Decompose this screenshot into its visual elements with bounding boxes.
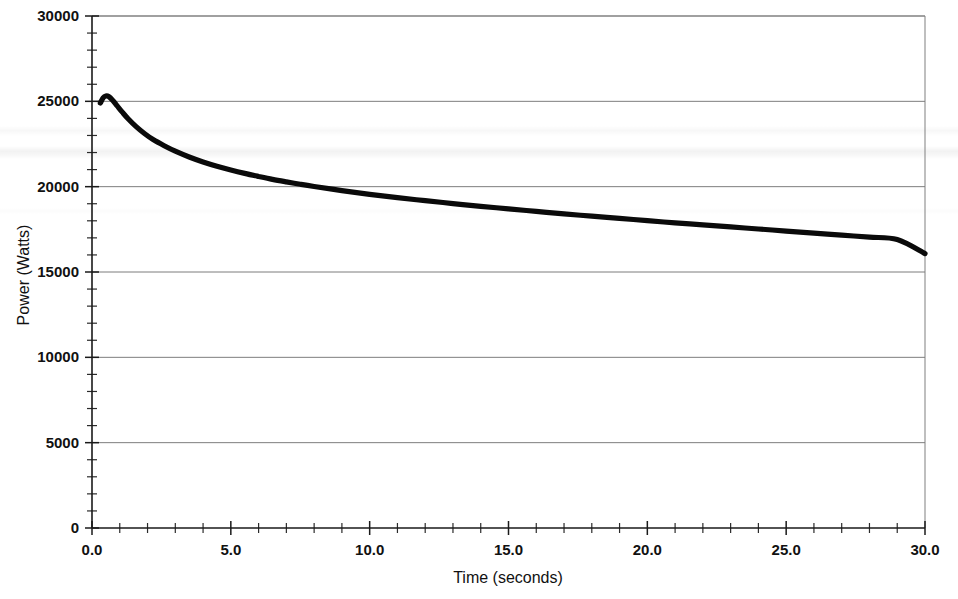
y-tick-label: 30000 [37,7,79,24]
x-axis-tick-labels: 0.05.010.015.020.025.030.0 [82,541,940,558]
y-tick-label: 5000 [46,434,79,451]
y-axis-tick-labels: 050001000015000200002500030000 [37,7,79,536]
x-tick-label: 5.0 [220,541,241,558]
horizontal-gridlines [92,16,925,443]
y-tick-label: 10000 [37,348,79,365]
chart-plot-area: 050001000015000200002500030000 0.05.010.… [0,0,958,599]
y-axis-title: Power (Watts) [15,225,32,326]
y-tick-label: 15000 [37,263,79,280]
x-tick-label: 25.0 [772,541,801,558]
y-tick-label: 25000 [37,92,79,109]
x-tick-label: 20.0 [633,541,662,558]
power-vs-time-chart: 050001000015000200002500030000 0.05.010.… [0,0,958,599]
x-tick-label: 0.0 [82,541,103,558]
x-tick-label: 30.0 [910,541,939,558]
x-axis-title: Time (seconds) [453,569,563,586]
power-decay-curve [100,96,925,254]
x-tick-label: 15.0 [494,541,523,558]
x-tick-label: 10.0 [355,541,384,558]
y-tick-label: 20000 [37,178,79,195]
y-tick-label: 0 [71,519,79,536]
